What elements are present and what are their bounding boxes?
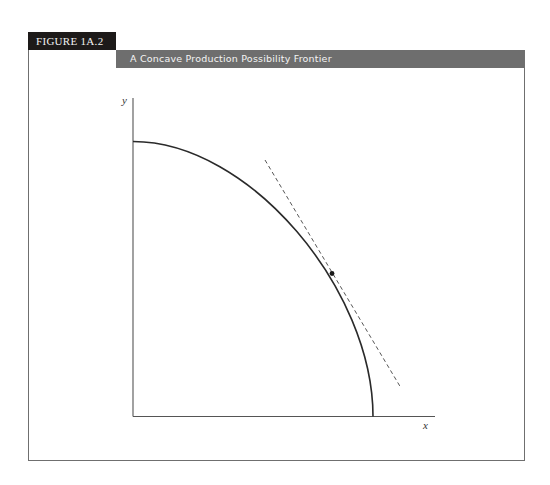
ppf-chart bbox=[0, 0, 550, 485]
y-axis-label: y bbox=[122, 95, 127, 106]
tangency-point bbox=[330, 271, 335, 276]
production-possibility-frontier-curve bbox=[133, 142, 373, 417]
x-axis-label: x bbox=[423, 420, 428, 431]
